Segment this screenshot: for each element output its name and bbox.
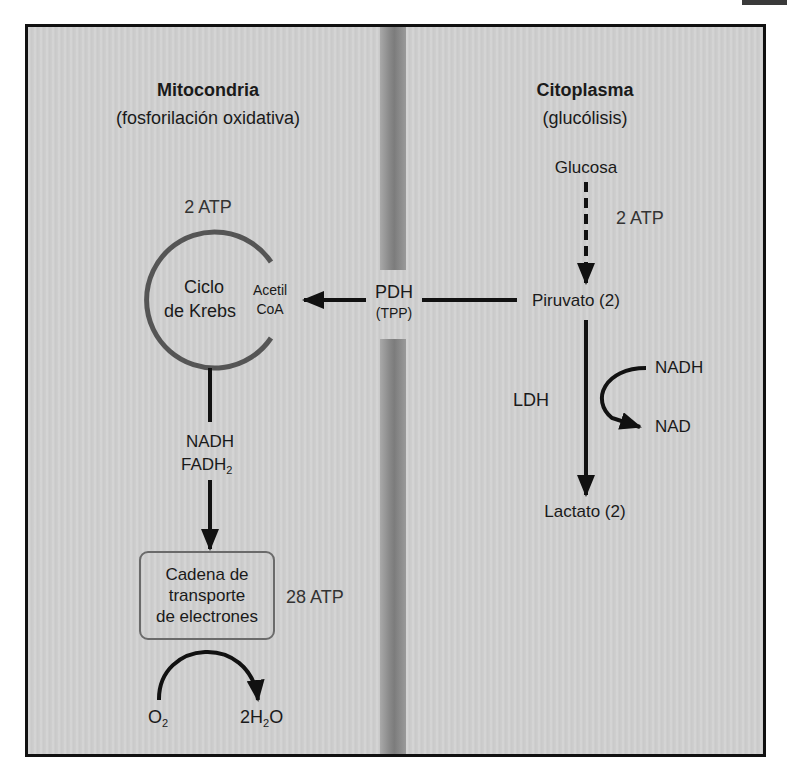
cytoplasm-title: Citoplasma	[536, 80, 633, 100]
krebs-label-line1: Ciclo	[184, 277, 224, 297]
oxygen-subscript: 2	[162, 717, 168, 729]
oxygen-water-curved-arrow	[159, 652, 258, 700]
oxygen-base: O	[148, 707, 162, 727]
lactate-label: Lactato (2)	[544, 502, 625, 522]
fadh2-subscript: 2	[226, 464, 232, 476]
nadh-label: NADH	[655, 358, 703, 378]
acetyl-coa-line2: CoA	[256, 299, 283, 319]
water-suffix: O	[269, 707, 283, 727]
electron-transport-chain-box: Cadena de transporte de electrones	[139, 551, 275, 640]
krebs-atp: 2 ATP	[184, 197, 232, 217]
pdh-cofactor-label: (TPP)	[376, 303, 413, 323]
pyruvate-label: Piruvato (2)	[532, 291, 620, 311]
mitochondria-subtitle: (fosforilación oxidativa)	[116, 108, 300, 128]
cytoplasm-subtitle: (glucólisis)	[542, 108, 627, 128]
fadh2-carrier-label: FADH2	[181, 455, 232, 475]
etc-atp: 28 ATP	[286, 587, 344, 607]
krebs-label-line2: de Krebs	[164, 301, 236, 321]
mitochondria-title: Mitocondria	[157, 80, 259, 100]
water-label: 2H2O	[240, 707, 283, 727]
nadh-carrier-label: NADH	[186, 432, 234, 452]
water-prefix: 2H	[240, 707, 263, 727]
oxygen-label: O2	[148, 707, 168, 727]
etc-line3: de electrones	[156, 606, 258, 627]
glycolysis-atp: 2 ATP	[616, 208, 664, 228]
glucose-label: Glucosa	[555, 158, 617, 178]
nadh-nad-curved-arrow	[602, 368, 646, 427]
etc-line2: transporte	[156, 585, 258, 606]
acetyl-coa-line1: Acetil	[253, 280, 287, 300]
pdh-enzyme-label: PDH	[375, 282, 413, 302]
nad-label: NAD	[655, 417, 691, 437]
etc-line1: Cadena de	[156, 564, 258, 585]
ldh-label: LDH	[513, 390, 549, 410]
fadh2-base: FADH	[181, 455, 226, 474]
